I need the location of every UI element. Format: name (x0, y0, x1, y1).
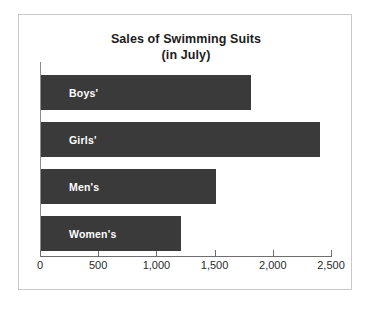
x-axis-line (40, 256, 331, 257)
bar-label: Girls' (69, 134, 97, 146)
x-tick-mark (40, 250, 41, 257)
bar-label: Boys' (69, 87, 98, 99)
bar-row: Boys' (41, 75, 251, 110)
x-tick-label: 500 (75, 259, 121, 271)
x-tick-label: 2,000 (250, 259, 296, 271)
x-tick-mark (273, 250, 274, 257)
x-tick-label: 1,000 (133, 259, 179, 271)
x-tick-mark (156, 250, 157, 257)
x-tick-label: 0 (17, 259, 63, 271)
chart-figure: Sales of Swimming Suits (in July) 05001,… (0, 0, 369, 309)
chart-subtitle: (in July) (19, 47, 353, 63)
bar-label: Men's (69, 181, 99, 193)
chart-card: Sales of Swimming Suits (in July) 05001,… (18, 14, 352, 290)
plot-area: 05001,0001,5002,0002,500 Boys'Girls'Men'… (40, 62, 340, 262)
bar (41, 169, 216, 204)
x-tick-label: 1,500 (192, 259, 238, 271)
chart-title: Sales of Swimming Suits (19, 31, 353, 47)
x-tick-label: 2,500 (308, 259, 354, 271)
chart-title-block: Sales of Swimming Suits (in July) (19, 31, 353, 63)
bar-row: Men's (41, 169, 216, 204)
bar-row: Girls' (41, 122, 320, 157)
x-tick-mark (331, 250, 332, 257)
x-tick-mark (215, 250, 216, 257)
bar-row: Women's (41, 216, 181, 251)
x-tick-mark (98, 250, 99, 257)
bar-label: Women's (69, 228, 116, 240)
